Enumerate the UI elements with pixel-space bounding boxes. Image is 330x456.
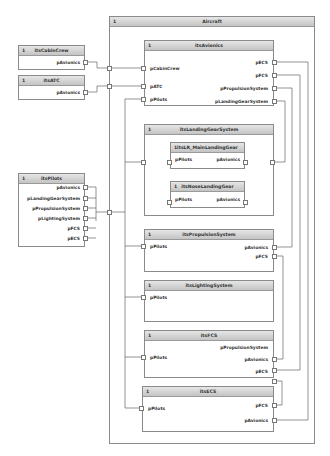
port-icon[interactable] [141,84,146,89]
part-its-ecs[interactable]: 1itsECS pPilots pFCS pAvionics [142,386,274,432]
port-icon[interactable] [83,90,88,95]
port-label: pAvionics [216,157,240,163]
part-its-atc[interactable]: 1itsATC pAvionics [18,75,85,100]
port-icon[interactable] [243,160,248,165]
port-icon[interactable] [83,206,88,211]
port-label: pLandingGearSystem [215,99,268,105]
port-label: pECS [67,236,80,242]
port-label: pPropulsionSystem [32,206,80,212]
port-icon[interactable] [167,160,172,165]
port-icon[interactable] [272,357,277,362]
port-icon[interactable] [83,60,88,65]
part-title: itsLightingSystem [145,281,273,290]
port-icon[interactable] [83,196,88,201]
port-label: pFCS [255,73,268,79]
port-label: pAvionics [216,197,240,203]
port-label: pFCS [255,403,268,409]
part-its-pilots[interactable]: 1itsPilots pAvionics pLandingGearSystem … [18,173,85,247]
port-icon[interactable] [272,73,277,78]
part-its-nose-landing-gear[interactable]: 1itsNoseLandingGear pPilots pAvionics [170,181,245,208]
port-label: pAvionics [244,357,268,363]
aircraft-port-icon[interactable] [107,210,112,215]
port-icon[interactable] [83,185,88,190]
port-icon[interactable] [243,200,248,205]
part-title: itsNoseLandingGear [171,182,244,191]
port-icon[interactable] [141,355,146,360]
part-title: itsPilots [19,174,84,183]
port-label: pCabinCrew [150,66,180,72]
part-title: itsATC [19,76,84,85]
part-title: itsECS [143,387,273,396]
port-label: pAvionics [244,418,268,424]
port-label: pPilots [150,355,167,361]
aircraft-port-icon[interactable] [107,84,112,89]
aircraft-title: Aircraft [110,17,314,26]
part-title: itsLR_MainLandingGear [171,143,244,152]
port-icon[interactable] [141,295,146,300]
port-label: pPropulsionSystem [220,345,268,351]
port-icon[interactable] [272,254,277,259]
part-its-cabin-crew[interactable]: 1itsCabinCrew pAvionics [18,45,85,70]
port-icon[interactable] [272,418,277,423]
part-its-fcs[interactable]: 1itsFCS pPilots pPropulsionSystem pAvion… [144,330,274,378]
port-label: pLightingSystem [38,216,80,222]
port-label: pECS [255,369,268,375]
port-label: pFCS [67,226,80,232]
part-title: itsAvionics [145,41,273,50]
port-icon[interactable] [83,226,88,231]
port-icon[interactable] [270,160,275,165]
port-icon[interactable] [272,245,277,250]
port-label: pPilots [175,197,192,203]
aircraft-port-icon[interactable] [107,66,112,71]
port-icon[interactable] [141,160,146,165]
port-label: pPilots [175,157,192,163]
port-label: pAvionics [56,60,80,66]
port-icon[interactable] [272,60,277,65]
port-label: pECS [255,60,268,66]
port-icon[interactable] [272,368,277,373]
port-icon[interactable] [167,200,172,205]
part-title: itsFCS [145,331,273,340]
part-its-propulsion-system[interactable]: 1itsPropulsionSystem pPilots pAvionics p… [144,229,274,272]
part-title: itsLandingGearSystem [145,125,273,134]
part-title: itsCabinCrew [19,46,84,55]
port-label: pPilots [148,406,165,412]
port-label: pAvionics [56,90,80,96]
port-icon[interactable] [139,406,144,411]
port-icon[interactable] [272,403,277,408]
port-icon[interactable] [141,66,146,71]
port-label: pLandingGearSystem [27,196,80,202]
part-its-avionics[interactable]: 1itsAvionics pCabinCrew pATC pPilots pEC… [144,40,274,106]
port-icon[interactable] [141,244,146,249]
port-label: pATC [150,84,162,90]
part-its-lighting-system[interactable]: 1itsLightingSystem pPilots [144,280,274,322]
port-icon[interactable] [83,216,88,221]
port-label: pAvionics [244,245,268,251]
port-icon[interactable] [272,86,277,91]
port-label: pPilots [150,295,167,301]
port-label: pPilots [150,244,167,250]
port-icon[interactable] [272,99,277,104]
port-icon[interactable] [141,97,146,102]
part-title: itsPropulsionSystem [145,230,273,239]
port-label: pAvionics [56,185,80,191]
part-its-lr-main-landing-gear[interactable]: 1itsLR_MainLandingGear pPilots pAvionics [170,142,245,169]
port-label: pPilots [150,97,167,103]
port-label: pPropulsionSystem [220,86,268,92]
aircraft-header: 1 Aircraft [110,17,314,27]
port-icon[interactable] [272,379,277,384]
port-icon[interactable] [83,236,88,241]
port-label: pFCS [255,254,268,260]
